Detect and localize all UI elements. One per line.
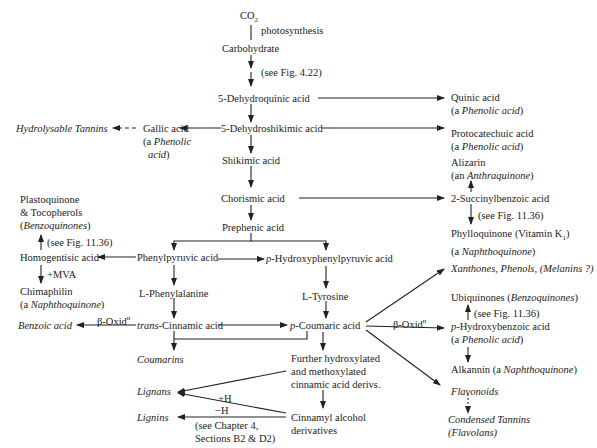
node-protocatechuic-acid: Protocatechuic acid (a Phenolic acid) <box>451 127 534 153</box>
node-plastoquinone-tocopherols: Plastoquinone & Tocopherols (Benzoquinon… <box>20 193 91 232</box>
node-chimaphilin: Chimaphilin (a Naphthoquinone) <box>20 285 104 311</box>
node-prephenic-acid: Prephenic acid <box>222 221 284 234</box>
label-minus-h: −H <box>215 404 229 417</box>
node-p-coumaric-acid: p-Coumaric acid <box>290 319 360 332</box>
label-beta-oxidation-right: β-Oxidn <box>393 315 426 331</box>
node-phenylpyruvic-acid: Phenylpyruvic acid <box>137 251 218 264</box>
pathway-diagram: CO2 photosynthesis Carbohydrate (see Fig… <box>0 0 597 448</box>
node-hydrolysable-tannins: Hydrolysable Tannins <box>16 122 108 135</box>
node-alkannin: Alkannin (a Naphthoquinone) <box>451 363 577 376</box>
node-lignins: Lignins <box>137 411 169 424</box>
node-gallic-acid: Gallic acid (a Phenolic acid) <box>143 122 191 161</box>
node-flavonoids: Flavonoids <box>451 385 498 398</box>
node-homogentisic-acid: Homogentisic acid <box>20 251 99 264</box>
label-see-fig-11-36-a: (see Fig. 11.36) <box>478 209 544 222</box>
label-photosynthesis: photosynthesis <box>261 24 323 37</box>
node-5-dehydroquinic-acid: 5-Dehydroquinic acid <box>218 92 310 105</box>
node-further-hydroxylated-cinnamic-derivs: Further hydroxylated and methoxylated ci… <box>291 352 381 391</box>
node-cinnamyl-alcohol-derivatives: Cinnamyl alcohol derivatives <box>291 411 366 437</box>
label-see-fig-11-36-b: (see Fig. 11.36) <box>47 236 113 249</box>
node-chorismic-acid: Chorismic acid <box>221 192 285 205</box>
node-coumarins: Coumarins <box>137 353 184 366</box>
node-l-phenylalanine: L-Phenylalanine <box>139 287 208 300</box>
node-ubiquinones: Ubiquinones (Benzoquinones) <box>451 291 578 304</box>
label-see-fig-4-22: (see Fig. 4.22) <box>261 66 322 79</box>
node-p-hydroxyphenylpyruvic-acid: p-Hydroxyphenylpyruvic acid <box>266 252 393 265</box>
node-carbohydrate: Carbohydrate <box>222 42 279 55</box>
node-quinic-acid: Quinic acid (a Phenolic acid) <box>451 91 523 117</box>
node-trans-cinnamic-acid: trans-Cinnamic acid <box>137 319 223 332</box>
node-benzoic-acid: Benzoic acid <box>18 319 72 332</box>
node-shikimic-acid: Shikimic acid <box>222 154 280 167</box>
label-see-chapter-4: (see Chapter 4, Sections B2 & D2) <box>195 419 275 445</box>
node-p-hydroxybenzoic-acid: p-Hydroxybenzoic acid (a Phenolic acid) <box>451 320 550 346</box>
label-mva: +MVA <box>47 268 76 281</box>
node-xanthones-phenols-melanins: Xanthones, Phenols, (Melanins ?) <box>451 262 594 275</box>
label-see-fig-11-36-c: (see Fig. 11.36) <box>474 307 540 320</box>
label-beta-oxidation-left: β-Oxidn <box>97 312 130 328</box>
node-condensed-tannins: Condensed Tannins (Flavolans) <box>448 413 530 439</box>
node-lignans: Lignans <box>137 385 171 398</box>
node-l-tyrosine: L-Tyrosine <box>302 290 349 303</box>
node-5-dehydroshikimic-acid: 5-Dehydroshikimic acid <box>221 122 323 135</box>
node-alizarin: Alizarin (an Anthraquinone) <box>451 156 534 182</box>
node-phylloquinone: Phylloquinone (Vitamin K1) (a Naphthoqui… <box>451 227 569 258</box>
node-co2: CO2 <box>240 9 258 27</box>
node-2-succinylbenzoic-acid: 2-Succinylbenzoic acid <box>451 192 549 205</box>
